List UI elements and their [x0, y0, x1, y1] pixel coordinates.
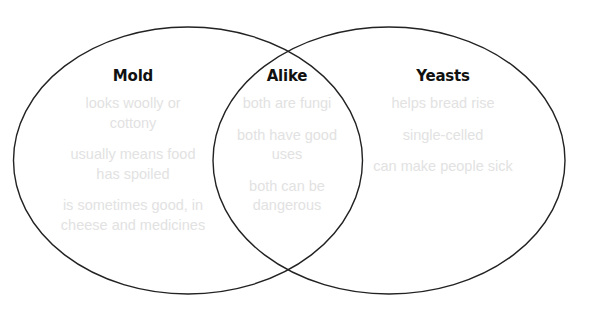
- alike-region: Alike both are fungi both have good uses…: [222, 67, 352, 228]
- alike-item: both can be dangerous: [249, 177, 325, 216]
- mold-item: usually means food has spoiled: [71, 145, 196, 184]
- yeasts-item: helps bread rise: [391, 94, 494, 114]
- mold-item: looks woolly or cottony: [85, 94, 180, 133]
- alike-item: both are fungi: [243, 94, 332, 114]
- alike-item: both have good uses: [237, 126, 337, 165]
- mold-item: is sometimes good, in cheese and medicin…: [61, 196, 205, 235]
- alike-title: Alike: [267, 67, 308, 85]
- mold-title: Mold: [113, 67, 153, 85]
- yeasts-title: Yeasts: [416, 67, 470, 85]
- yeasts-item: can make people sick: [373, 157, 512, 177]
- yeasts-item: single-celled: [403, 126, 484, 146]
- mold-region: Mold looks woolly or cottony usually mea…: [33, 67, 233, 247]
- yeasts-region: Yeasts helps bread rise single-celled ca…: [358, 67, 528, 189]
